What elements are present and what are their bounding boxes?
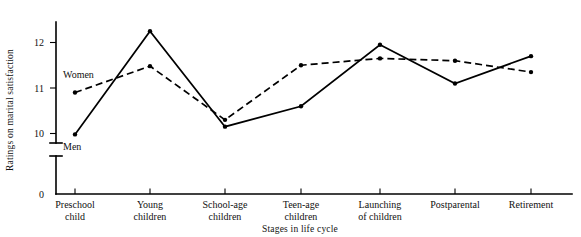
line-chart: 12 11 10 0 Preschool child Young childre…: [0, 0, 581, 237]
x-category-label-4-line1: Launching: [359, 199, 402, 210]
y-tick-label-12: 12: [34, 37, 44, 48]
y-tick-label-11: 11: [34, 83, 44, 94]
series-group-women: [73, 56, 533, 122]
x-category-label-2-line2: children: [209, 211, 242, 222]
y-tick-label-0: 0: [39, 189, 44, 200]
x-category-label-5-line1: Postparental: [430, 199, 480, 210]
x-axis-title: Stages in life cycle: [262, 224, 338, 234]
data-point: [148, 64, 152, 68]
x-category-label-4-line2: of children: [358, 211, 402, 222]
series-annotation-women: Women: [63, 69, 94, 80]
series-annotation-men: Men: [63, 141, 81, 152]
x-category-label-0-line2: child: [65, 211, 85, 222]
data-point: [453, 81, 457, 85]
data-point: [378, 43, 382, 47]
data-point: [529, 70, 533, 74]
x-category-label-3-line1: Teen-age: [283, 199, 320, 210]
data-point: [529, 54, 533, 58]
data-point: [299, 63, 303, 67]
data-point: [223, 124, 227, 128]
y-axis-title: Ratings on marital satisfaction: [5, 49, 15, 171]
series-markers-women: [73, 56, 533, 122]
series-markers-men: [73, 29, 533, 137]
data-point: [299, 104, 303, 108]
data-point: [378, 56, 382, 60]
data-point: [73, 132, 77, 136]
chart-figure: 12 11 10 0 Preschool child Young childre…: [0, 0, 581, 237]
data-point: [73, 90, 77, 94]
x-category-label-1-line2: children: [134, 211, 167, 222]
x-category-label-2-line1: School-age: [203, 199, 249, 210]
x-category-label-1-line1: Young: [137, 199, 163, 210]
x-category-label-3-line2: children: [285, 211, 318, 222]
x-category-label-0-line1: Preschool: [55, 199, 95, 210]
data-point: [148, 29, 152, 33]
x-category-label-6-line1: Retirement: [509, 199, 554, 210]
series-group-men: [73, 29, 533, 137]
series-line-men: [75, 31, 531, 134]
data-point: [453, 59, 457, 63]
y-tick-label-10: 10: [34, 128, 44, 139]
series-line-women: [75, 58, 531, 119]
data-point: [223, 118, 227, 122]
